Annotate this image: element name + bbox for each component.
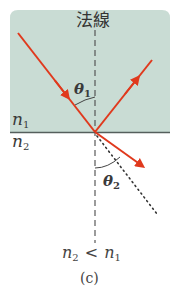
theta1-symbol: θ	[74, 80, 84, 98]
n2-subscript: 2	[23, 141, 29, 152]
theta1-label: θ1	[74, 82, 91, 99]
n1-symbol: n	[12, 109, 23, 129]
relation-left-symbol: n	[62, 243, 72, 262]
theta1-subscript: 1	[84, 88, 91, 99]
n1-label: n1	[12, 111, 29, 130]
normal-label: 法線	[76, 12, 110, 29]
n1-subscript: 1	[23, 119, 29, 130]
less-than-symbol: <	[85, 243, 98, 262]
theta2-subscript: 2	[113, 180, 120, 191]
theta2-symbol: θ	[103, 172, 113, 190]
relation-right-subscript: 1	[115, 252, 121, 263]
refracted-ray	[95, 132, 141, 165]
theta2-label: θ2	[103, 174, 120, 191]
theta2-arc	[95, 157, 120, 168]
n2-symbol: n	[12, 131, 23, 151]
relation-left-subscript: 2	[72, 252, 78, 263]
n2-label: n2	[12, 133, 29, 152]
refraction-diagram: 法線 n1 n2 θ1 θ2 n2 < n1 (c)	[0, 0, 176, 297]
relation-right-symbol: n	[104, 243, 114, 262]
figure-caption: (c)	[80, 271, 99, 285]
index-relation-label: n2 < n1	[62, 245, 121, 263]
